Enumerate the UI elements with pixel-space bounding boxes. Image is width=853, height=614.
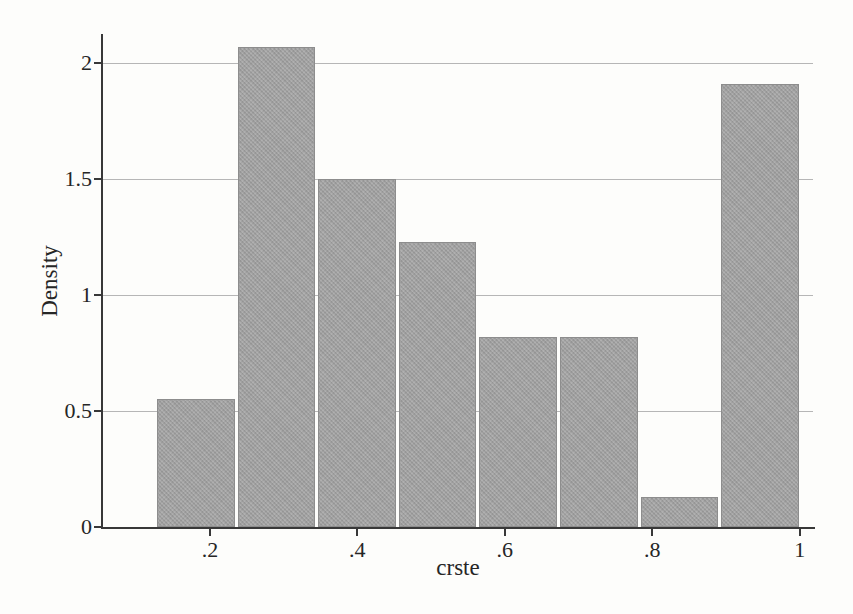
y-tick-label: 1	[28, 282, 92, 308]
y-axis-line	[101, 34, 103, 529]
x-tick-mark	[799, 529, 801, 536]
x-axis-title: crste	[398, 555, 518, 581]
gridline	[103, 63, 813, 64]
histogram-bar	[721, 84, 799, 527]
y-tick-label: 2	[28, 50, 92, 76]
y-tick-mark	[94, 410, 101, 412]
x-tick-mark	[504, 529, 506, 536]
x-tick-label: .8	[617, 537, 687, 563]
y-tick-label: 0.5	[28, 398, 92, 424]
histogram-bar	[318, 179, 396, 527]
y-tick-label: 1.5	[28, 166, 92, 192]
x-tick-label: 1	[765, 537, 835, 563]
x-tick-mark	[209, 529, 211, 536]
gridline	[103, 179, 813, 180]
x-tick-mark	[651, 529, 653, 536]
y-tick-mark	[94, 62, 101, 64]
histogram-figure: Density 00.511.52 .2.4.6.81 crste	[0, 0, 853, 614]
histogram-bar	[560, 337, 638, 527]
histogram-bar	[479, 337, 557, 527]
y-tick-label: 0	[28, 514, 92, 540]
histogram-bar	[157, 399, 235, 527]
plot-area	[103, 34, 813, 527]
x-tick-label: .4	[322, 537, 392, 563]
y-tick-mark	[94, 178, 101, 180]
x-tick-label: .2	[175, 537, 245, 563]
y-tick-mark	[94, 526, 101, 528]
histogram-bar	[238, 47, 316, 527]
x-tick-mark	[356, 529, 358, 536]
histogram-bar	[641, 497, 719, 527]
y-tick-mark	[94, 294, 101, 296]
histogram-bar	[399, 242, 477, 527]
